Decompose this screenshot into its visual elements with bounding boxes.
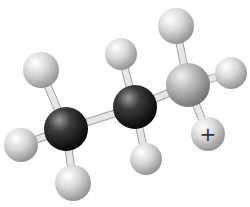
molecule-svg: + [0,0,250,207]
carbon-atom-c2 [113,85,157,129]
hydrogen-atom-h1 [23,52,59,88]
hydrogen-atom-h5 [130,143,162,175]
atoms-group: + [4,8,247,201]
positive-charge-icon: + [200,122,217,146]
hydrogen-atom-h3 [55,165,91,201]
carbon-atom-c1 [44,107,88,151]
hydrogen-atom-h2 [4,128,38,162]
molecule-diagram: Ball-and-stick model of a propyl cation [0,0,250,207]
hydrogen-atom-h7 [215,57,247,89]
hydrogen-atom-h6 [158,8,194,44]
carbon-atom-c3 [166,63,210,107]
hydrogen-atom-h4 [105,38,137,70]
